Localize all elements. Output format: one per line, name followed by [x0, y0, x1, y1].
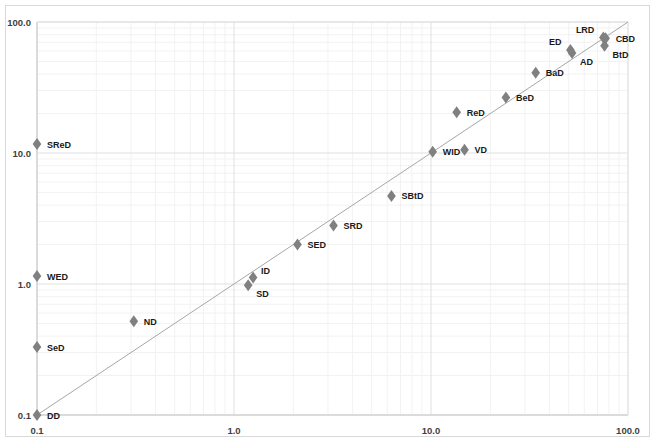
- chart-canvas: 0.11.010.0100.00.11.010.0100.0DDSeDWEDSR…: [0, 0, 658, 448]
- x-tick-label: 1.0: [227, 425, 240, 436]
- data-point-label: LRD: [576, 25, 595, 35]
- data-point-label: WID: [443, 147, 461, 157]
- data-point-label: SED: [307, 240, 326, 250]
- data-point-label: SBtD: [401, 191, 423, 201]
- data-point-label: SRD: [344, 221, 364, 231]
- chart-screenshot: 0.11.010.0100.00.11.010.0100.0DDSeDWEDSR…: [0, 0, 658, 448]
- data-point-label: BaD: [546, 68, 565, 78]
- data-point-label: CBD: [616, 34, 636, 44]
- data-point-label: DD: [47, 411, 60, 421]
- x-tick-label: 10.0: [422, 425, 441, 436]
- x-tick-label: 100.0: [616, 425, 640, 436]
- y-tick-label: 1.0: [18, 279, 31, 290]
- data-point-label: BtD: [613, 50, 629, 60]
- data-point-label: SD: [256, 289, 269, 299]
- scatter-plot: 0.11.010.0100.00.11.010.0100.0DDSeDWEDSR…: [0, 0, 658, 448]
- data-point-label: SeD: [47, 343, 65, 353]
- y-tick-label: 0.1: [18, 410, 32, 421]
- data-point-label: SReD: [47, 140, 72, 150]
- data-point-label: ND: [144, 317, 157, 327]
- data-point-label: BeD: [516, 93, 535, 103]
- y-tick-label: 10.0: [13, 148, 32, 159]
- data-point-label: ED: [549, 37, 562, 47]
- data-point-label: ReD: [467, 108, 486, 118]
- data-point-label: VD: [475, 145, 488, 155]
- data-point-label: AD: [580, 57, 593, 67]
- data-point-label: ID: [261, 266, 271, 276]
- data-point-label: WED: [47, 272, 68, 282]
- x-tick-label: 0.1: [30, 425, 44, 436]
- y-tick-label: 100.0: [7, 17, 31, 28]
